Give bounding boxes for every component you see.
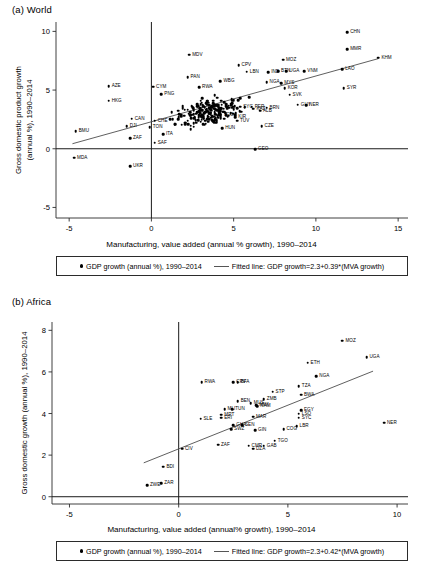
scatter-point-label: TZA bbox=[302, 384, 311, 389]
scatter-point bbox=[219, 113, 222, 116]
scatter-point bbox=[199, 108, 202, 111]
panel-b-legend: GDP growth (annual %), 1990–2014 Fitted … bbox=[56, 541, 408, 561]
panel-a-plot-area: CHNMMRKHMMOZMDVCPVBTNUGAVNMLAOLBNINDPANW… bbox=[56, 22, 408, 218]
y-tick-label: 4 bbox=[42, 409, 46, 418]
scatter-point bbox=[233, 105, 236, 108]
scatter-point-label: ITA bbox=[166, 132, 173, 137]
scatter-point bbox=[177, 109, 180, 112]
scatter-point bbox=[265, 106, 268, 109]
scatter-point bbox=[285, 70, 288, 73]
scatter-point bbox=[207, 116, 210, 119]
scatter-point bbox=[148, 126, 151, 129]
scatter-point bbox=[202, 123, 205, 126]
scatter-point bbox=[234, 116, 237, 119]
scatter-point bbox=[173, 123, 176, 126]
scatter-point-label: PER bbox=[255, 104, 265, 109]
scatter-point-label: VNM bbox=[307, 69, 317, 74]
scatter-point-label: SLE bbox=[204, 416, 213, 421]
panel-b-legend-line-label: Fitted line: GDP growth=2.3+0.42*(MVA gr… bbox=[232, 547, 384, 556]
scatter-point-label: MOZ bbox=[345, 338, 355, 343]
scatter-point-label: BMU bbox=[79, 129, 89, 134]
scatter-point-label: ZAF bbox=[221, 442, 230, 447]
scatter-point bbox=[315, 375, 318, 378]
scatter-point bbox=[181, 107, 184, 110]
scatter-point bbox=[341, 339, 344, 342]
scatter-point-label: AZE bbox=[112, 84, 121, 89]
scatter-point-label: ERI bbox=[224, 415, 232, 420]
scatter-point-label: SYC bbox=[302, 415, 312, 420]
scatter-marker-icon bbox=[80, 549, 83, 552]
scatter-point bbox=[152, 85, 155, 88]
scatter-point bbox=[219, 117, 222, 120]
scatter-point bbox=[170, 111, 173, 114]
scatter-point bbox=[383, 422, 386, 425]
panel-b-legend-marker-label: GDP growth (annual %), 1990–2014 bbox=[86, 547, 202, 556]
scatter-point bbox=[296, 103, 299, 106]
scatter-point-label: DZA bbox=[256, 447, 265, 452]
scatter-point-label: SEN bbox=[245, 423, 255, 428]
scatter-point bbox=[282, 58, 285, 61]
panel-b-plot-area: MOZUGAETHNGARWACPVBFATZASTPBWAZMBBENMUSM… bbox=[52, 322, 408, 504]
scatter-point-label: MDA bbox=[77, 155, 87, 160]
scatter-point bbox=[298, 412, 301, 415]
scatter-point-label: GEO bbox=[258, 147, 268, 152]
scatter-point-label: SYR bbox=[347, 86, 357, 91]
scatter-point-label: MOZ bbox=[286, 57, 296, 62]
scatter-point bbox=[178, 113, 181, 116]
panel-a-legend: GDP growth (annual %), 1990–2014 Fitted … bbox=[56, 256, 408, 276]
scatter-point-label: SVK bbox=[293, 92, 302, 97]
panel-b-legend-marker-item: GDP growth (annual %), 1990–2014 bbox=[80, 547, 202, 556]
scatter-point bbox=[206, 103, 209, 106]
scatter-point-label: TUV bbox=[240, 118, 249, 123]
scatter-point bbox=[189, 114, 192, 117]
scatter-point bbox=[236, 381, 239, 384]
scatter-point bbox=[200, 381, 203, 384]
scatter-point-label: HUN bbox=[225, 126, 235, 131]
x-tick-label: 15 bbox=[394, 224, 402, 233]
scatter-point-label: WBG bbox=[223, 79, 234, 84]
scatter-point bbox=[186, 119, 189, 122]
scatter-point bbox=[254, 148, 257, 151]
scatter-point-label: LBR bbox=[300, 424, 309, 429]
scatter-point bbox=[237, 64, 240, 67]
x-tick-label: 5 bbox=[232, 224, 236, 233]
scatter-point bbox=[288, 93, 291, 96]
scatter-point bbox=[236, 400, 239, 403]
scatter-point bbox=[273, 439, 276, 442]
scatter-point-label: TGO bbox=[278, 438, 288, 443]
scatter-point-label: HKG bbox=[112, 98, 122, 103]
y-tick-label: 2 bbox=[42, 451, 46, 460]
scatter-point-label: ZMB bbox=[267, 397, 277, 402]
scatter-point bbox=[222, 107, 225, 110]
scatter-point bbox=[221, 103, 224, 106]
scatter-point bbox=[73, 156, 76, 159]
scatter-point bbox=[130, 118, 133, 121]
scatter-point-label: ZAR bbox=[164, 481, 173, 486]
scatter-point-label: IND bbox=[271, 70, 279, 75]
scatter-point-label: GIN bbox=[258, 428, 266, 433]
fitted-line-icon bbox=[214, 266, 229, 267]
scatter-point-label: CIV bbox=[185, 447, 193, 452]
scatter-point bbox=[271, 390, 274, 393]
scatter-point bbox=[197, 119, 200, 122]
scatter-point-label: KOR bbox=[288, 86, 298, 91]
scatter-point-label: BFA bbox=[241, 380, 250, 385]
panel-b-y-axis-label: Gross domestic growth (annual %), 1990–2… bbox=[20, 332, 29, 495]
scatter-point-label: NER bbox=[387, 421, 397, 426]
scatter-point bbox=[236, 119, 239, 122]
panel-a-y-axis-label-line1: Gross domestic product growth bbox=[14, 66, 25, 174]
scatter-point bbox=[343, 87, 346, 90]
scatter-point bbox=[280, 82, 283, 85]
scatter-point-label: MAR bbox=[256, 414, 266, 419]
scatter-point-label: SAF bbox=[158, 141, 167, 146]
scatter-point bbox=[265, 81, 268, 84]
scatter-point bbox=[192, 125, 195, 128]
panel-world: (a) World Gross domestic product growth … bbox=[0, 0, 423, 292]
scatter-point bbox=[283, 87, 286, 90]
scatter-point bbox=[223, 101, 226, 104]
scatter-point bbox=[200, 101, 203, 104]
scatter-point bbox=[300, 394, 303, 397]
x-tick-label: 0 bbox=[149, 224, 153, 233]
scatter-point bbox=[189, 128, 192, 131]
scatter-point-label: NER bbox=[309, 103, 319, 108]
